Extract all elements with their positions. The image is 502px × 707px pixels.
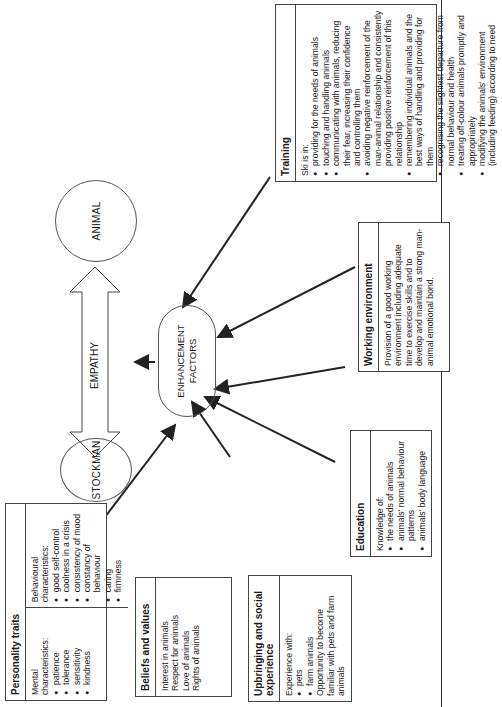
list-item: recognising the slightest departure from… — [435, 10, 456, 176]
list-item: animals' body language — [417, 436, 427, 551]
working-title: Working environment — [359, 223, 379, 371]
working-text: Provision of a good working environment … — [379, 223, 439, 371]
beliefs-values-box: Beliefs and values Interest in animals R… — [135, 577, 232, 697]
upbringing-body: Experience with: pets farm animals Oppor… — [280, 576, 350, 701]
list-item: caring — [103, 509, 113, 602]
training-title: Training — [276, 5, 296, 181]
behavioural-label: Behavioural characteristics: — [30, 509, 51, 602]
list-item: providing for the needs of animals — [310, 10, 320, 176]
stockman-node: STOCKMAN — [60, 438, 132, 502]
list-item: kindness — [82, 613, 92, 695]
animal-node: ANIMAL — [55, 180, 137, 262]
factors-label: FACTORS — [187, 324, 199, 397]
animal-label: ANIMAL — [91, 201, 102, 240]
list-item: tolerance — [61, 613, 71, 695]
list-item: good self-control — [51, 509, 61, 602]
list-item: firmness — [113, 509, 123, 602]
upbringing-title: Upbringing and social experience — [249, 576, 280, 701]
list-item: constancy of behaviour — [82, 509, 103, 602]
list-item: Love of animals — [181, 583, 191, 691]
list-item: sensitivity — [72, 613, 82, 695]
list-item: Interest in animals — [160, 583, 170, 691]
education-intro: Knowledge of: — [375, 436, 385, 551]
mental-label: Mental characteristics: — [30, 613, 51, 695]
training-intro: Ski is in: — [300, 10, 310, 176]
list-item: avoiding negative reinforcement of the m… — [362, 10, 404, 176]
upbringing-box: Upbringing and social experience Experie… — [248, 575, 352, 702]
mental-characteristics: Mental characteristics: patience toleran… — [26, 608, 128, 700]
list-item: communicating with animals, reducing the… — [331, 10, 362, 176]
beliefs-list: Interest in animals Respect for animals … — [156, 578, 206, 696]
list-item: the needs of animals — [385, 436, 395, 551]
education-box: Education Knowledge of: the needs of ani… — [350, 430, 432, 557]
enhancement-factors-node: ENHANCEMENT FACTORS — [158, 305, 216, 417]
training-body: Ski is in: providing for the needs of an… — [296, 5, 502, 181]
list-item: patience — [51, 613, 61, 695]
list-item: animals' normal behaviour patterns — [396, 436, 417, 551]
list-item: coolness in a crisis — [61, 509, 71, 602]
behavioural-characteristics: Behavioural characteristics: good self-c… — [26, 504, 128, 608]
education-title: Education — [351, 431, 371, 556]
personality-traits-box: Personality traits Mental characteristic… — [5, 503, 107, 701]
list-item: farm animals — [305, 581, 315, 696]
upbringing-intro: Experience with: — [284, 581, 294, 696]
list-item: Respect for animals — [170, 583, 180, 691]
list-item: modifying the animals' environment (incl… — [477, 10, 498, 176]
list-item: consistency of mood — [72, 509, 82, 602]
list-item: treating off-colour animals promptly and… — [456, 10, 477, 176]
personality-title: Personality traits — [6, 504, 26, 700]
education-body: Knowledge of: the needs of animals anima… — [371, 431, 431, 556]
list-item: touching and handling animals — [321, 10, 331, 176]
list-item: Rights of animals — [191, 583, 201, 691]
stockman-label: STOCKMAN — [91, 441, 102, 500]
beliefs-title: Beliefs and values — [136, 578, 156, 696]
training-box: Training Ski is in: providing for the ne… — [275, 4, 437, 182]
list-item: pets — [294, 581, 304, 696]
enhancement-label: ENHANCEMENT — [175, 324, 187, 397]
empathy-label: EMPATHY — [89, 342, 100, 389]
upbringing-outro: Opportunity to become familiar with pets… — [315, 581, 346, 696]
list-item: remembering individual animals and the b… — [404, 10, 435, 176]
working-environment-box: Working environment Provision of a good … — [358, 222, 450, 372]
